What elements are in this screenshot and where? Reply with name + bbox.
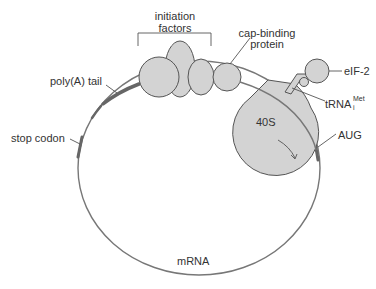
initiation-factors-label-line1: initiation (155, 10, 195, 22)
poly-a-tail-label: poly(A) tail (50, 75, 102, 87)
stop-codon-leader (70, 139, 80, 144)
cap-binding-label-line2: protein (250, 38, 284, 50)
poly-a-tail-segment-2 (92, 106, 101, 118)
eif2-small-subunit (300, 78, 309, 87)
trna-label-sup: Met (353, 95, 365, 102)
trna-label-sub: i (353, 104, 355, 111)
initiation-factors-label-line2: factors (158, 22, 192, 34)
eif2-label: eIF-2 (344, 65, 370, 77)
trna-label: tRNA (325, 98, 352, 110)
poly-a-tail-leader (106, 85, 117, 93)
stop-codon-mark (78, 137, 82, 157)
ribosome-40s-label: 40S (256, 116, 276, 128)
translation-initiation-diagram: initiation factors cap-binding protein e… (0, 0, 376, 289)
cap-binding-leader (230, 38, 250, 64)
mrna-label: mRNA (177, 255, 210, 267)
aug-leader (318, 134, 336, 147)
eif2 (305, 59, 329, 83)
stop-codon-label: stop codon (11, 132, 65, 144)
cap-binding-protein (213, 63, 241, 91)
aug-label: AUG (338, 129, 362, 141)
initiation-factor-right (188, 59, 214, 95)
initiation-factor-left (139, 57, 179, 97)
